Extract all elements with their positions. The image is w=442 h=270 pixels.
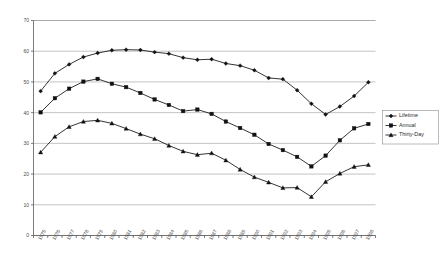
legend-label: Thirty-Day (399, 131, 424, 137)
chart-background (0, 0, 442, 270)
data-point (82, 80, 86, 84)
data-point (96, 77, 100, 81)
y-tick-label: 10 (23, 202, 29, 208)
data-point (124, 85, 128, 89)
y-tick-label: 50 (23, 79, 29, 85)
data-point (267, 142, 271, 146)
data-point (352, 127, 356, 131)
data-point (110, 82, 114, 86)
y-tick-label: 70 (23, 17, 29, 23)
data-point (210, 112, 214, 116)
data-point (196, 108, 200, 112)
data-point (224, 120, 228, 124)
chart-legend[interactable]: LifetimeAnnualThirty-Day (383, 111, 439, 145)
data-point (338, 139, 342, 143)
data-point (153, 98, 157, 102)
legend-label: Annual (399, 122, 416, 128)
y-tick-label: 30 (23, 140, 29, 146)
chart-canvas: 010203040506070 197519761977197819791980… (0, 0, 442, 270)
data-point (181, 109, 185, 113)
data-point (139, 91, 143, 95)
legend-label: Lifetime (399, 112, 418, 118)
data-point (238, 126, 242, 130)
y-tick-label: 20 (23, 171, 29, 177)
data-point (53, 96, 57, 100)
y-tick-label: 60 (23, 48, 29, 54)
data-point (253, 133, 257, 137)
data-point (281, 148, 285, 152)
data-point (67, 87, 71, 91)
data-point (167, 103, 171, 107)
data-point (39, 111, 43, 115)
y-tick-label: 0 (26, 232, 29, 238)
data-point (367, 122, 371, 126)
data-point (324, 154, 328, 158)
legend-marker-square-icon (389, 124, 393, 128)
y-tick-label: 40 (23, 110, 29, 116)
data-point (295, 155, 299, 159)
line-chart: 010203040506070 197519761977197819791980… (0, 0, 442, 270)
data-point (310, 165, 314, 169)
